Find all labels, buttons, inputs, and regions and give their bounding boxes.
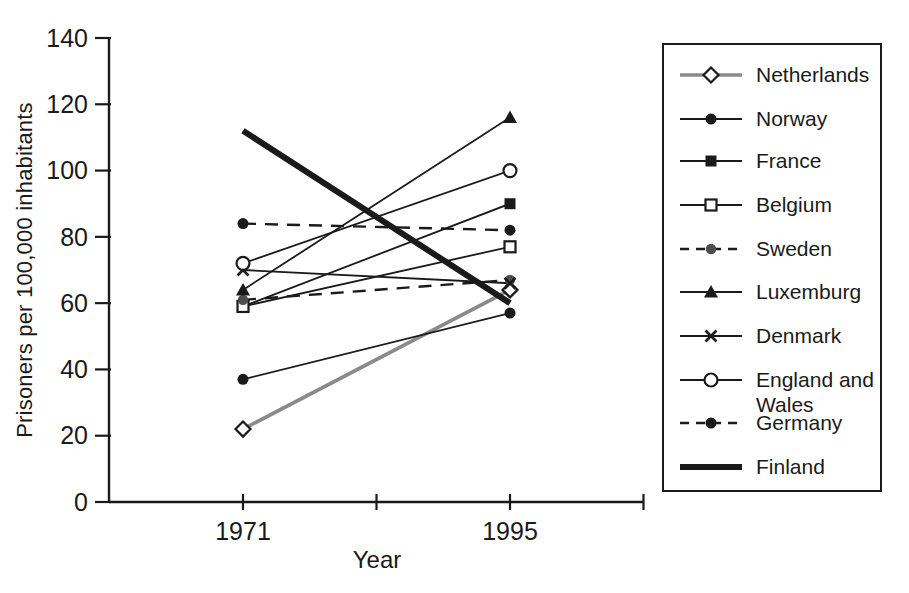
legend-sample-luxemburg xyxy=(678,279,744,305)
legend-item-belgium: Belgium xyxy=(678,192,874,218)
series-line-netherlands xyxy=(243,290,510,429)
axes xyxy=(109,38,644,502)
legend-item-netherlands: Netherlands xyxy=(678,62,874,88)
legend-label-france: France xyxy=(756,148,821,173)
y-tick-label: 140 xyxy=(46,24,88,52)
marker-filled-circle xyxy=(505,308,516,319)
series-line-luxemburg xyxy=(243,118,510,290)
marker-open-square xyxy=(505,241,516,252)
y-tick-label: 60 xyxy=(60,289,88,317)
prisoner-rates-figure: 02040608010012014019711995 Prisoners per… xyxy=(0,0,909,593)
marker-filled-circle xyxy=(238,374,249,385)
marker-open-circle xyxy=(705,374,718,387)
y-axis-title: Prisoners per 100,000 inhabitants xyxy=(12,102,38,438)
legend-item-denmark: Denmark xyxy=(678,323,874,349)
marker-open-circle xyxy=(504,164,517,177)
marker-gray-circle xyxy=(238,295,248,305)
legend-item-norway: Norway xyxy=(678,106,874,132)
marker-filled-circle xyxy=(706,418,717,429)
marker-open-diamond xyxy=(236,422,251,437)
y-tick-label: 20 xyxy=(60,421,88,449)
y-tick-label: 100 xyxy=(46,156,88,184)
series-line-germany xyxy=(243,224,510,231)
legend-item-germany: Germany xyxy=(678,410,874,436)
legend-sample-netherlands xyxy=(678,62,744,88)
legend-item-finland: Finland xyxy=(678,454,874,480)
marker-gray-circle xyxy=(706,244,716,254)
marker-filled-triangle xyxy=(236,283,250,296)
legend-box: NetherlandsNorwayFranceBelgiumSwedenLuxe… xyxy=(662,43,882,492)
y-tick-label: 40 xyxy=(60,355,88,383)
legend-label-belgium: Belgium xyxy=(756,192,832,217)
legend-sample-germany xyxy=(678,410,744,436)
series-markers xyxy=(236,111,518,437)
legend-label-netherlands: Netherlands xyxy=(756,62,869,87)
marker-open-square xyxy=(706,200,717,211)
legend-sample-england-and-wales xyxy=(678,367,744,393)
legend-sample-finland xyxy=(678,454,744,480)
legend-sample-denmark xyxy=(678,323,744,349)
marker-filled-square xyxy=(505,198,516,209)
legend-sample-belgium xyxy=(678,192,744,218)
legend-sample-sweden xyxy=(678,236,744,262)
legend-item-england-and-wales: England and Wales xyxy=(678,367,874,393)
legend-sample-norway xyxy=(678,106,744,132)
marker-filled-circle xyxy=(706,114,717,125)
x-axis-title: Year xyxy=(353,546,402,574)
y-tick-label: 80 xyxy=(60,223,88,251)
series-line-norway xyxy=(243,313,510,379)
legend-label-luxemburg: Luxemburg xyxy=(756,279,861,304)
marker-open-diamond xyxy=(704,68,719,83)
legend-sample-france xyxy=(678,148,744,174)
legend-item-france: France xyxy=(678,148,874,174)
legend-item-luxemburg: Luxemburg xyxy=(678,279,874,305)
y-tick-label: 120 xyxy=(46,90,88,118)
legend-item-sweden: Sweden xyxy=(678,236,874,262)
y-axis-ticks: 020406080100120140 xyxy=(46,24,111,516)
legend-label-germany: Germany xyxy=(756,410,842,435)
marker-filled-square xyxy=(706,156,717,167)
legend-label-denmark: Denmark xyxy=(756,323,841,348)
marker-open-circle xyxy=(237,257,250,270)
legend-label-finland: Finland xyxy=(756,454,825,479)
marker-filled-circle xyxy=(505,225,516,236)
x-tick-label: 1971 xyxy=(215,517,271,545)
x-tick-label: 1995 xyxy=(482,517,538,545)
y-tick-label: 0 xyxy=(74,488,88,516)
legend-label-norway: Norway xyxy=(756,106,827,131)
marker-filled-triangle xyxy=(503,111,517,124)
marker-filled-circle xyxy=(238,218,249,229)
series-lines xyxy=(243,118,510,430)
legend-label-sweden: Sweden xyxy=(756,236,832,261)
